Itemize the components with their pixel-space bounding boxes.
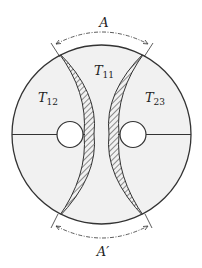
- dimension-label-a: A: [99, 16, 108, 29]
- region-label-t12: T12: [38, 91, 58, 107]
- label-sub: 11: [103, 70, 114, 80]
- left-hole: [57, 122, 83, 148]
- dim-a-prime-left-arrow-icon: [56, 226, 61, 230]
- label-sub: 23: [154, 97, 165, 107]
- dim-a-prime-arc: [56, 226, 148, 238]
- region-label-t23: T23: [145, 91, 165, 107]
- dimension-label-a-prime: A′: [97, 245, 109, 258]
- right-hole: [120, 122, 146, 148]
- label-main: T: [145, 90, 154, 105]
- label-main: T: [94, 63, 103, 78]
- dim-a-left-extension: [51, 43, 60, 57]
- cross-section-diagram: [0, 0, 202, 268]
- dim-a-right-extension: [144, 43, 153, 57]
- label-sub: 12: [47, 97, 58, 107]
- dim-a-left-arrow-icon: [56, 40, 61, 44]
- region-label-t11: T11: [94, 64, 114, 80]
- dim-a-arc: [56, 32, 148, 44]
- label-main: T: [38, 90, 47, 105]
